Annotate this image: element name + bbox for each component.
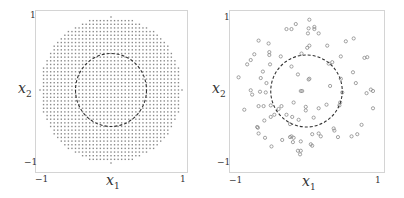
right-chart-panel: 1 −1 −1 1 x1 x2: [202, 0, 404, 198]
grid-points: [39, 16, 182, 163]
right-plot-area: [202, 0, 404, 198]
left-plot-area: [0, 0, 202, 198]
y-axis-label-sub: 2: [26, 89, 32, 99]
y-tick-max: 1: [224, 12, 230, 22]
y-tick-min: −1: [24, 157, 37, 167]
left-chart-panel: 1 −1 −1 1 x1 x2: [0, 0, 202, 198]
y-axis-label: x2: [212, 80, 226, 99]
x-axis-label: x1: [302, 173, 316, 192]
y-axis-label: x2: [18, 80, 32, 99]
x-axis-label-sub: 1: [114, 181, 120, 191]
x-tick-max: 1: [375, 175, 381, 185]
x-axis-label-sub: 1: [310, 182, 316, 192]
x-tick-min: −1: [35, 174, 48, 184]
y-tick-max: 1: [30, 10, 36, 20]
decision-boundary-circle: [271, 55, 343, 127]
y-axis-label-main: x: [18, 80, 26, 96]
y-axis-label-sub: 2: [220, 89, 226, 99]
x-axis-label-main: x: [302, 173, 310, 189]
y-axis-label-main: x: [212, 80, 220, 96]
x-axis-label: x1: [106, 172, 120, 191]
x-axis-label-main: x: [106, 172, 114, 188]
x-tick-max: 1: [180, 174, 186, 184]
x-tick-min: −1: [229, 175, 242, 185]
sample-points: [237, 18, 375, 156]
y-tick-min: −1: [217, 157, 230, 167]
